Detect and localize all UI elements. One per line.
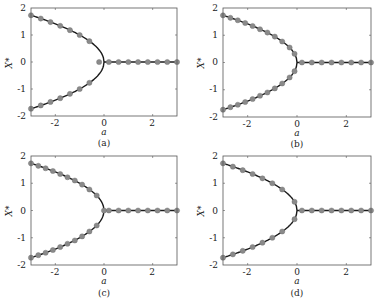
- data-marker: [106, 59, 111, 64]
- ytick-1: 1: [212, 30, 218, 40]
- data-marker: [339, 208, 344, 213]
- plot-area: [28, 8, 179, 116]
- data-marker: [43, 166, 48, 171]
- data-marker: [260, 176, 265, 181]
- data-marker: [339, 60, 344, 65]
- panel-caption: (b): [291, 139, 304, 149]
- data-marker: [319, 208, 324, 213]
- ytick-2: 2: [212, 151, 218, 161]
- x-axis-label: a: [294, 276, 299, 286]
- data-marker: [243, 99, 248, 104]
- x-axis-label: a: [101, 127, 106, 137]
- panel-d: 2 1 0 -1 -2 -2 0 2 a X* (d): [196, 151, 374, 298]
- data-marker: [43, 250, 48, 255]
- data-marker: [155, 208, 160, 213]
- xtick-m2: -2: [51, 267, 60, 277]
- data-marker: [48, 19, 53, 24]
- data-marker: [260, 240, 265, 245]
- ytick-m2: -2: [17, 260, 26, 270]
- data-marker: [280, 229, 285, 234]
- ytick-1: 1: [212, 178, 218, 188]
- xtick-2: 2: [149, 267, 155, 277]
- panel-caption: (c): [98, 288, 110, 298]
- xtick-m2: -2: [51, 118, 60, 128]
- data-marker: [50, 168, 55, 173]
- ytick-0: 0: [212, 57, 218, 67]
- data-marker: [250, 96, 255, 101]
- ytick-m2: -2: [209, 260, 218, 270]
- data-marker: [292, 69, 297, 74]
- data-marker: [349, 208, 354, 213]
- data-marker: [265, 30, 270, 35]
- data-marker: [126, 59, 131, 64]
- ytick-m2: -2: [209, 112, 218, 122]
- plot-area: [28, 156, 179, 265]
- y-axis-label: X*: [196, 57, 206, 69]
- data-marker: [72, 178, 77, 183]
- data-marker: [272, 86, 277, 91]
- panel-caption: (d): [291, 288, 304, 298]
- data-marker: [58, 171, 63, 176]
- x-axis-label: a: [101, 276, 106, 286]
- data-marker: [77, 86, 82, 91]
- data-marker: [80, 182, 85, 187]
- data-marker: [36, 253, 41, 258]
- data-marker: [270, 181, 275, 186]
- data-marker: [280, 81, 285, 86]
- data-marker: [145, 59, 150, 64]
- y-axis-label: X*: [4, 205, 14, 217]
- data-marker: [101, 208, 106, 213]
- data-marker: [265, 90, 270, 95]
- data-marker: [65, 175, 70, 180]
- xtick-2: 2: [343, 267, 349, 277]
- data-marker: [299, 60, 304, 65]
- data-marker: [292, 51, 297, 56]
- data-marker: [292, 199, 297, 204]
- data-marker: [94, 193, 99, 198]
- data-marker: [94, 223, 99, 228]
- data-marker: [359, 208, 364, 213]
- ytick-0: 0: [20, 57, 26, 67]
- data-marker: [329, 208, 334, 213]
- panel-a: 2 1 0 -1 -2 -2 0 2 a X* (a): [4, 3, 180, 148]
- data-marker: [116, 208, 121, 213]
- xtick-m2: -2: [243, 119, 252, 129]
- ytick-1: 1: [20, 30, 26, 40]
- data-marker: [292, 217, 297, 222]
- ytick-2: 2: [212, 3, 218, 13]
- data-marker: [72, 238, 77, 243]
- panel-c: 2 1 0 -1 -2 -2 0 2 a X* (c): [4, 151, 180, 298]
- data-marker: [155, 59, 160, 64]
- data-marker: [349, 60, 354, 65]
- ytick-2: 2: [20, 3, 26, 13]
- ytick-m1: -1: [17, 233, 26, 243]
- data-marker: [145, 208, 150, 213]
- data-marker: [250, 23, 255, 28]
- data-marker: [319, 60, 324, 65]
- data-marker: [280, 39, 285, 44]
- ytick-m1: -1: [209, 233, 218, 243]
- data-marker: [58, 244, 63, 249]
- data-marker: [228, 15, 233, 20]
- data-marker: [106, 208, 111, 213]
- data-marker: [230, 252, 235, 257]
- data-marker: [67, 91, 72, 96]
- data-marker: [67, 28, 72, 33]
- data-marker: [329, 60, 334, 65]
- xtick-m2: -2: [243, 267, 252, 277]
- data-marker: [270, 235, 275, 240]
- data-marker: [235, 102, 240, 107]
- ytick-m1: -1: [209, 84, 218, 94]
- ytick-0: 0: [20, 206, 26, 216]
- data-marker: [235, 18, 240, 23]
- data-marker: [165, 59, 170, 64]
- data-marker: [165, 208, 170, 213]
- data-marker: [250, 244, 255, 249]
- data-marker: [280, 187, 285, 192]
- data-marker: [116, 59, 121, 64]
- data-marker: [228, 105, 233, 110]
- data-marker: [77, 32, 82, 37]
- y-axis-label: X*: [4, 57, 14, 69]
- ytick-m1: -1: [17, 84, 26, 94]
- data-marker: [243, 20, 248, 25]
